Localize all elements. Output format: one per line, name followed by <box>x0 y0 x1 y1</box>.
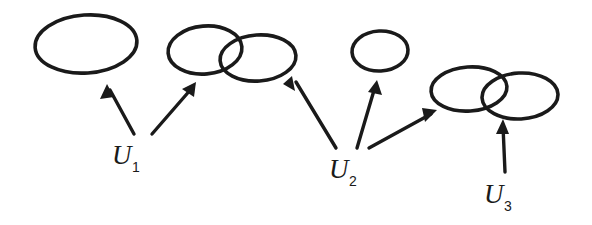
ellipse-group-1 <box>33 12 139 77</box>
open-set-ellipse <box>166 23 244 77</box>
arrow-u3-to-group4 <box>496 119 509 172</box>
label-u3-base: U <box>484 179 505 209</box>
arrow-u2-to-group2 <box>283 76 336 148</box>
open-set-ellipse <box>33 12 139 77</box>
ellipse-group-4 <box>430 64 560 121</box>
diagram-canvas: U 1 U 2 U 3 <box>0 0 592 225</box>
arrow-u1-to-group1 <box>100 84 134 134</box>
open-set-ellipse <box>351 30 409 73</box>
ellipse-group-3 <box>351 30 409 73</box>
arrow-u2-to-group4 <box>369 108 437 148</box>
open-set-ellipse <box>218 32 297 83</box>
arrow-head-icon <box>496 119 509 134</box>
label-u1: U 1 <box>112 140 140 175</box>
label-u2-base: U <box>329 154 350 184</box>
arrow-shaft <box>152 88 192 134</box>
arrow-head-icon <box>368 80 382 95</box>
ellipse-group-2 <box>166 23 297 84</box>
label-u3-subscript: 3 <box>504 198 512 214</box>
label-u3: U 3 <box>484 179 512 214</box>
label-u1-base: U <box>112 140 133 170</box>
arrow-shaft <box>369 114 431 148</box>
arrow-head-icon <box>422 108 437 122</box>
arrow-head-icon <box>283 76 295 91</box>
open-set-ellipse <box>481 71 559 121</box>
arrow-shaft <box>357 87 375 148</box>
label-u2-subscript: 2 <box>349 173 357 189</box>
open-sets-diagram: U 1 U 2 U 3 <box>0 0 592 225</box>
arrow-shaft <box>296 82 336 148</box>
label-u1-subscript: 1 <box>132 159 140 175</box>
open-set-ellipse <box>430 64 509 113</box>
arrow-u1-to-group2 <box>152 82 196 134</box>
label-u2: U 2 <box>329 154 357 189</box>
arrow-u2-to-group3 <box>357 80 382 148</box>
